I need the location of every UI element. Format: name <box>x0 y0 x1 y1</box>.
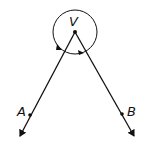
diagram-canvas: V A B <box>0 0 141 159</box>
vertex-point <box>73 30 77 34</box>
vertex-label: V <box>69 14 79 29</box>
point-A <box>28 113 32 117</box>
ray-VB <box>75 32 134 136</box>
arc-arrow-left-icon <box>56 44 62 50</box>
point-A-label: A <box>16 104 26 119</box>
ray-VA <box>20 32 75 136</box>
point-B <box>120 112 124 116</box>
point-B-label: B <box>127 104 136 119</box>
angle-diagram: V A B <box>0 0 141 159</box>
